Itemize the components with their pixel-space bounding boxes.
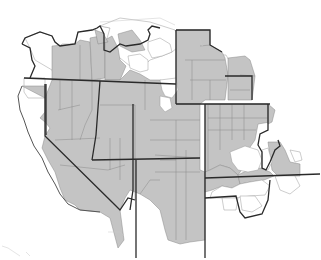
county-map [0, 0, 321, 260]
